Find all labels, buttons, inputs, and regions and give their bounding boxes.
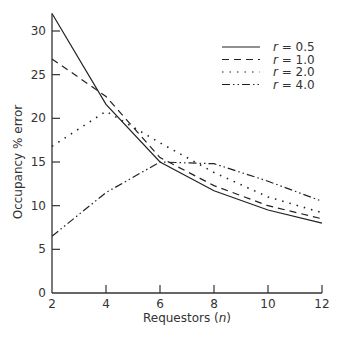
x-tick-label: 6	[156, 297, 164, 311]
x-axis-label: Requestors (n)	[143, 311, 231, 325]
y-tick-label: 5	[38, 242, 46, 256]
y-axis-label: Occupancy % error	[11, 105, 25, 220]
series-line-2	[52, 111, 322, 212]
y-tick-label: 25	[31, 68, 46, 82]
x-tick-label: 2	[48, 297, 56, 311]
y-tick-label: 0	[38, 286, 46, 300]
y-tick-label: 15	[31, 155, 46, 169]
line-chart: 05101520253024681012 r = 0.5r = 1.0r = 2…	[0, 0, 342, 339]
y-tick-label: 30	[31, 24, 46, 38]
series-line-3	[52, 162, 322, 236]
y-tick-label: 10	[31, 199, 46, 213]
x-tick-label: 8	[210, 297, 218, 311]
x-tick-label: 4	[102, 297, 110, 311]
legend: r = 0.5r = 1.0r = 2.0r = 4.0	[222, 40, 315, 92]
y-tick-label: 20	[31, 111, 46, 125]
x-tick-label: 10	[260, 297, 275, 311]
x-tick-label: 12	[314, 297, 329, 311]
legend-label: r = 4.0	[273, 78, 315, 92]
